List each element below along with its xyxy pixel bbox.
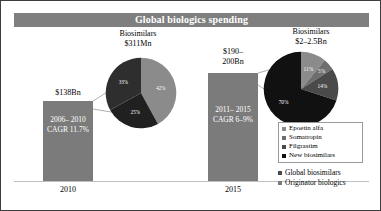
pie-title-2015: Biosimilars $2–2.5Bn	[266, 27, 356, 46]
bar-annotation-2015: 2011– 2015 CAGR 6–9%	[208, 105, 258, 124]
chart-figure: Global biologics spending $138Bn 2006– 2…	[0, 0, 381, 211]
pie-svg-2010: 42%25%33%	[105, 57, 177, 129]
bar-value-label-2015: $190– 200Bn	[198, 47, 268, 66]
legend-item[interactable]: Filgrastim	[282, 142, 360, 151]
legend-swatch-icon	[282, 154, 286, 158]
bar-2015[interactable]: 2011– 2015 CAGR 6–9%	[208, 73, 258, 181]
bar-value-label-2010: $138Bn	[33, 88, 103, 98]
pie-slice-label: 25%	[131, 110, 141, 115]
chart-title: Global biologics spending	[14, 13, 369, 27]
pie-slice-label: 33%	[119, 80, 129, 85]
pie-slice-label: 70%	[279, 99, 289, 105]
legend-item-label: Epoetin alfa	[289, 124, 323, 133]
pie-chart-2010[interactable]: 42%25%33%	[105, 57, 177, 129]
legend-swatch-icon	[278, 171, 282, 175]
x-axis-tick-2015: 2015	[203, 185, 263, 194]
legend-item[interactable]: Somatropin	[282, 133, 360, 142]
legend-swatch-icon	[282, 136, 286, 140]
pie-slice-label: 5%	[318, 68, 326, 74]
legend-swatch-icon	[278, 181, 282, 185]
pie-slice-label: 42%	[156, 86, 166, 91]
pie-chart-2015[interactable]: 11%5%14%70%	[263, 51, 339, 127]
pie-svg-2015: 11%5%14%70%	[263, 51, 339, 127]
legend-item-label: Somatropin	[289, 133, 322, 142]
bar-2010[interactable]: 2006– 2010 CAGR 11.7%	[43, 101, 93, 181]
legend-swatch-icon	[282, 127, 286, 131]
pie-legend: Epoetin alfaSomatropinFilgrastimNew bios…	[278, 122, 363, 163]
bar-annotation-2010: 2006– 2010 CAGR 11.7%	[43, 115, 93, 134]
legend-swatch-icon	[282, 145, 286, 149]
bar-legend: Global biosimilarsOriginator biologics	[278, 168, 373, 188]
pie-title-2010: Biosimilars $311Mn	[93, 29, 183, 48]
legend-item[interactable]: Originator biologics	[278, 178, 373, 188]
x-axis-tick-2010: 2010	[38, 185, 98, 194]
legend-item[interactable]: Epoetin alfa	[282, 124, 360, 133]
legend-item-label: New biosimilars	[289, 151, 335, 160]
pie-slice-label: 14%	[318, 83, 328, 89]
legend-item-label: Originator biologics	[285, 178, 346, 188]
legend-item[interactable]: New biosimilars	[282, 151, 360, 160]
legend-item[interactable]: Global biosimilars	[278, 168, 373, 178]
legend-item-label: Filgrastim	[289, 142, 318, 151]
pie-slice-label: 11%	[304, 66, 314, 72]
legend-item-label: Global biosimilars	[285, 168, 341, 178]
